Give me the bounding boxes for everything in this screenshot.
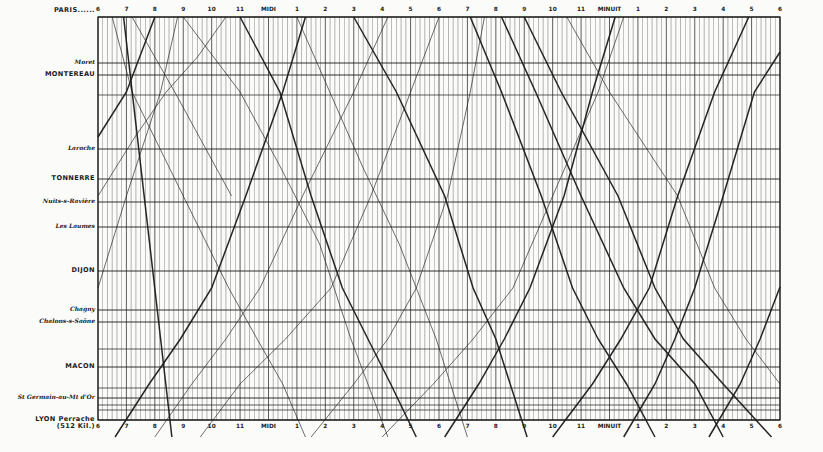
x-tick-bottom: 11 <box>236 423 244 429</box>
x-tick-bottom: 3 <box>693 423 697 429</box>
x-tick-bottom: 1 <box>636 423 640 429</box>
station-label: TONNERRE <box>51 174 95 182</box>
station-label: Chalons-s-Saône <box>39 317 95 324</box>
x-tick-bottom: 9 <box>181 423 185 429</box>
x-tick-bottom: 6 <box>778 423 782 429</box>
x-tick-top: 10 <box>208 6 216 12</box>
x-tick-top: 7 <box>124 6 128 12</box>
x-tick-bottom: 5 <box>750 423 754 429</box>
x-tick-top: 11 <box>577 6 585 12</box>
x-tick-bottom: 7 <box>124 423 128 429</box>
x-tick-bottom: 3 <box>352 423 356 429</box>
x-tick-bottom: 2 <box>323 423 327 429</box>
x-tick-bottom: MIDI <box>261 423 276 429</box>
x-tick-top: 1 <box>636 6 640 12</box>
x-tick-bottom: 11 <box>577 423 585 429</box>
x-tick-bottom: 7 <box>465 423 469 429</box>
x-tick-top: 2 <box>664 6 668 12</box>
x-tick-top: 1 <box>295 6 299 12</box>
x-tick-bottom: 8 <box>153 423 157 429</box>
x-tick-top: 8 <box>494 6 498 12</box>
x-tick-bottom: 9 <box>522 423 526 429</box>
x-tick-top: 4 <box>721 6 725 12</box>
marey-train-chart: 67891011MIDI1234567891011MINUIT123456678… <box>0 0 823 452</box>
station-label: DIJON <box>71 266 95 274</box>
station-label: (512 Kil.) <box>57 422 95 430</box>
x-tick-bottom: 2 <box>664 423 668 429</box>
x-tick-top: MINUIT <box>598 6 622 12</box>
station-label: Laroche <box>68 144 95 151</box>
x-tick-top: 11 <box>236 6 244 12</box>
station-label: Moret <box>75 58 95 65</box>
x-tick-bottom: 1 <box>295 423 299 429</box>
station-label: Nuits-s-Ravière <box>43 197 95 204</box>
station-label: Les Laumes <box>55 222 95 229</box>
station-label: Chagny <box>70 305 95 312</box>
station-label: MONTEREAU <box>45 70 95 78</box>
station-label: MACON <box>65 362 95 370</box>
x-tick-bottom: 5 <box>409 423 413 429</box>
train-path-up-4 <box>98 17 178 288</box>
x-tick-top: 5 <box>750 6 754 12</box>
x-tick-bottom: 10 <box>208 423 216 429</box>
x-tick-top: 7 <box>465 6 469 12</box>
x-tick-top: 10 <box>549 6 557 12</box>
x-tick-top: 6 <box>437 6 441 12</box>
x-tick-top: 8 <box>153 6 157 12</box>
x-tick-top: 3 <box>352 6 356 12</box>
x-tick-top: 3 <box>693 6 697 12</box>
station-label: St Germain-au-Mt d'Or <box>18 393 95 400</box>
chart-plot-area <box>0 0 823 452</box>
x-tick-bottom: 8 <box>494 423 498 429</box>
x-tick-bottom: 4 <box>380 423 384 429</box>
train-path-up-11 <box>709 287 780 437</box>
x-tick-bottom: MINUIT <box>598 423 622 429</box>
x-tick-bottom: 4 <box>721 423 725 429</box>
x-tick-bottom: 6 <box>96 423 100 429</box>
station-label: PARIS...... <box>54 6 95 14</box>
x-tick-top: 2 <box>323 6 327 12</box>
x-tick-bottom: 6 <box>437 423 441 429</box>
x-tick-top: MIDI <box>261 6 276 12</box>
x-tick-top: 6 <box>778 6 782 12</box>
x-tick-top: 6 <box>96 6 100 12</box>
x-tick-bottom: 10 <box>549 423 557 429</box>
x-tick-top: 4 <box>380 6 384 12</box>
x-tick-top: 9 <box>522 6 526 12</box>
x-tick-top: 5 <box>409 6 413 12</box>
x-tick-top: 9 <box>181 6 185 12</box>
